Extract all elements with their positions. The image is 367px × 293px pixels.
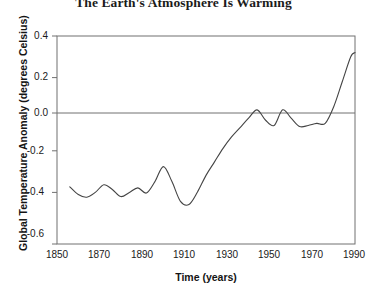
plot-frame <box>57 36 355 244</box>
y-axis-ticks <box>52 36 57 244</box>
temperature-anomaly-line <box>70 53 355 206</box>
plot-area <box>0 0 367 293</box>
chart-figure: The Earth's Atmosphere Is Warming Global… <box>0 0 367 293</box>
